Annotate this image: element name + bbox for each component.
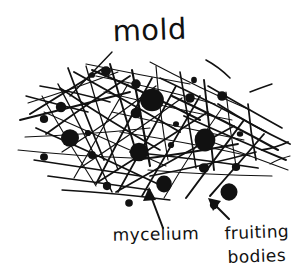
label-fruiting-bodies-line2: bodies bbox=[227, 245, 286, 267]
fruiting-body bbox=[40, 115, 48, 123]
fruiting-body bbox=[56, 102, 66, 113]
fruiting-body bbox=[88, 151, 96, 159]
fruiting-body bbox=[191, 77, 197, 83]
fruiting-body bbox=[101, 66, 111, 75]
fruiting-body bbox=[195, 129, 216, 152]
fruiting-body bbox=[131, 79, 140, 88]
mold-illustration: mold mycelium fruiting bodies bbox=[0, 0, 296, 274]
fruiting-body bbox=[140, 89, 164, 112]
fruiting-body bbox=[220, 183, 237, 200]
label-mold: mold bbox=[112, 12, 187, 49]
fruiting-body bbox=[168, 142, 174, 148]
fruiting-body bbox=[185, 93, 195, 103]
fruiting-body bbox=[130, 143, 148, 161]
fruiting-body bbox=[40, 153, 48, 161]
fruiting-body bbox=[85, 130, 91, 136]
label-mycelium: mycelium bbox=[113, 223, 200, 245]
fruiting-body bbox=[61, 129, 79, 147]
label-fruiting-bodies-line1: fruiting bbox=[224, 221, 289, 243]
fruiting-body bbox=[156, 176, 172, 193]
fruiting-body bbox=[199, 163, 209, 173]
fruiting-body bbox=[232, 163, 240, 171]
fruiting-body bbox=[103, 182, 111, 190]
fruiting-body bbox=[237, 131, 243, 137]
mold-diagram-page: mold mycelium fruiting bodies bbox=[0, 0, 296, 274]
fruiting-body bbox=[217, 91, 227, 101]
fruiting-body bbox=[125, 199, 133, 206]
fruiting-body bbox=[173, 121, 179, 127]
fruiting-body bbox=[131, 108, 142, 119]
